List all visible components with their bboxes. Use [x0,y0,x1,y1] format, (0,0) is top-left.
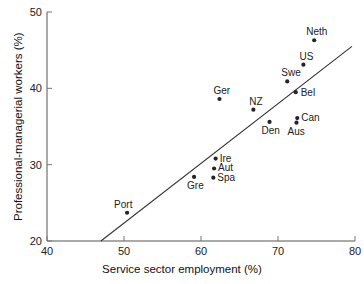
data-point-gre [192,175,196,179]
point-label-port: Port [114,199,132,210]
point-label-us: US [299,51,313,62]
point-label-ire: Ire [220,153,232,164]
data-point-us [301,63,305,67]
data-point-port [125,211,129,215]
axis-lines [47,12,355,241]
data-point-nz [251,108,255,112]
point-label-ger: Ger [213,85,230,96]
x-tick-label: 40 [41,245,53,257]
data-point-aut [212,166,216,170]
point-label-aut: Aut [218,162,233,173]
point-label-gre: Gre [187,180,204,191]
y-axis-title: Professional-managerial workers (%) [12,32,24,221]
data-point-neth [312,38,316,42]
trend-line [101,46,352,241]
point-label-nz: NZ [249,96,262,107]
data-point-bel [294,90,298,94]
x-axis-title: Service sector employment (%) [0,263,364,275]
y-tick-label: 50 [20,6,42,18]
plot-canvas [0,0,364,284]
point-label-neth: Neth [306,26,327,37]
point-label-aus: Aus [287,126,304,137]
data-point-ger [217,97,221,101]
x-tick-label: 80 [349,245,361,257]
point-label-den: Den [262,125,280,136]
x-tick-label: 70 [272,245,284,257]
data-point-swe [285,79,289,83]
x-tick-label: 60 [195,245,207,257]
data-point-ire [214,156,218,160]
data-point-spa [211,176,215,180]
data-point-aus [294,121,298,125]
point-label-can: Can [301,112,319,123]
point-label-bel: Bel [301,87,315,98]
y-tick-label: 20 [20,235,42,247]
data-point-den [267,120,271,124]
data-point-can [295,116,299,120]
x-tick-label: 50 [118,245,130,257]
point-label-swe: Swe [281,67,300,78]
scatter-plot-figure: 405060708020304050PortGreSpaAutIreGerDen… [0,0,364,284]
